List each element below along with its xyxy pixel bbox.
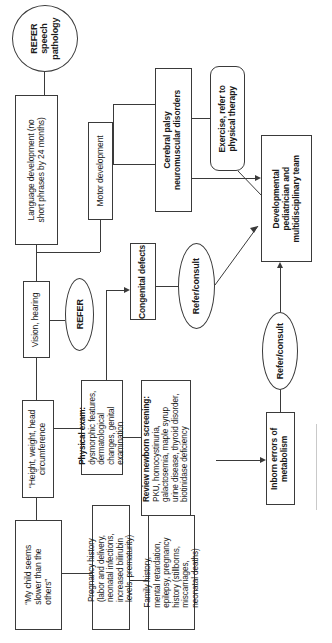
node-cerebral-palsy-label: Cerebral palsyneuromuscular disorders [164, 90, 184, 190]
node-refer-ellipse-label: REFER [74, 299, 84, 329]
node-refer-consult-top[interactable]: Refer/consult [178, 243, 215, 329]
node-language-development-label: Language development (noshort phrases by… [27, 117, 47, 222]
node-refer-consult-bottom-label: Refer/consult [275, 323, 285, 379]
node-refer-ellipse[interactable]: REFER [65, 278, 94, 351]
connector-height-to-physexam [54, 428, 81, 429]
node-exercise-physical-therapy-label: Exercise, refer tophysical therapy [218, 85, 238, 152]
connector-vision-to-height [36, 358, 37, 400]
node-refer-consult-bottom[interactable]: Refer/consult [262, 312, 298, 390]
node-family-history[interactable]: Family history,mental retardation,epilep… [148, 515, 195, 630]
node-height-weight-head-label: “Height, weight, headcircumference [28, 410, 48, 488]
node-physical-exam-label: Physical exam:dysmorphic features,dermat… [78, 390, 126, 464]
node-height-weight-head[interactable]: “Height, weight, headcircumference [22, 400, 54, 498]
connector-physexam-to-congenital-vertical [106, 290, 107, 380]
node-congenital-defects[interactable]: Congenital defects [130, 243, 156, 320]
node-vision-hearing[interactable]: Vision, hearing [23, 281, 50, 358]
node-motor-development-label: Motor development [96, 135, 106, 206]
node-refer-speech-pathology-label: REFERspeechpathology [29, 17, 60, 59]
node-exercise-physical-therapy[interactable]: Exercise, refer tophysical therapy [210, 66, 245, 171]
node-review-newborn-screening[interactable]: Review newborn screening:PKU, homocystin… [141, 380, 191, 516]
connector-referconsult-to-devped-line [280, 268, 281, 312]
arrowhead-referconsult-to-devped [277, 262, 283, 268]
node-review-newborn-screening-label: Review newborn screening:PKU, homocystin… [142, 394, 190, 502]
node-vision-hearing-label: Vision, hearing [32, 292, 42, 347]
node-refer-consult-top-label: Refer/consult [191, 258, 201, 314]
node-developmental-pediatrician[interactable]: Developmentalpediatrician andmultidiscip… [261, 135, 312, 262]
node-pregnancy-history[interactable]: Pregnancy history(labor and delivery,neo… [92, 505, 130, 630]
node-family-history-label: Family history,mental retardation,epilep… [143, 537, 200, 607]
connector-vision-to-refer [50, 320, 65, 321]
node-language-development[interactable]: Language development (noshort phrases by… [15, 95, 58, 245]
flowchart-canvas: REFERspeechpathology Language developmen… [0, 0, 332, 643]
connector-physexam-to-congenital-horizontal [106, 290, 124, 291]
node-refer-speech-pathology[interactable]: REFERspeechpathology [12, 5, 78, 72]
connector-newborn-to-inborn [216, 460, 260, 461]
node-motor-development[interactable]: Motor development [88, 122, 113, 220]
node-inborn-errors-label: Inborn errors ofmetabolism [271, 427, 291, 489]
node-developmental-pediatrician-label: Developmentalpediatrician andmultidiscip… [272, 155, 302, 243]
connector-height-to-mychild [36, 498, 37, 520]
node-pregnancy-history-label: Pregnancy history(labor and delivery,neo… [87, 533, 135, 602]
node-physical-exam[interactable]: Physical exam:dysmorphic features,dermat… [81, 380, 123, 475]
node-my-child-slower[interactable]: “My child seemsslower than theothers” [15, 520, 62, 630]
node-congenital-defects-label: Congenital defects [138, 244, 148, 318]
node-inborn-errors[interactable]: Inborn errors ofmetabolism [266, 412, 295, 505]
node-my-child-slower-label: “My child seemsslower than theothers” [24, 545, 54, 605]
node-cerebral-palsy[interactable]: Cerebral palsyneuromuscular disorders [155, 68, 192, 212]
connector-congenital-to-referconsult [156, 286, 178, 287]
